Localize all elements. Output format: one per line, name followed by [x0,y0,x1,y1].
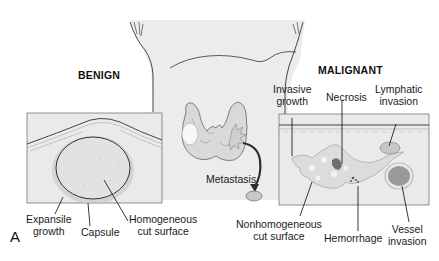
panel-letter: A [10,228,20,245]
label-vessel-invasion: Vessel invasion [388,223,427,247]
label-hemorrhage: Hemorrhage [324,232,382,244]
label-necrosis: Necrosis [326,91,367,103]
label-expansile-growth: Expansile growth [26,213,72,237]
malignant-title: MALIGNANT [318,64,383,76]
label-invasive-growth: Invasive growth [273,83,312,107]
label-capsule: Capsule [81,226,120,238]
benign-title: BENIGN [78,69,120,81]
label-nonhomogeneous-cut-surface: Nonhomogeneous cut surface [236,218,322,242]
metastatic-lymph-node [246,191,262,201]
label-homogeneous-cut-surface: Homogeneous cut surface [129,213,197,237]
malignant-panel [279,100,429,231]
benign-nodule [182,123,198,145]
benign-panel [27,113,162,226]
label-metastasis: Metastasis [206,173,256,185]
label-lymphatic-invasion: Lymphatic invasion [375,83,422,107]
